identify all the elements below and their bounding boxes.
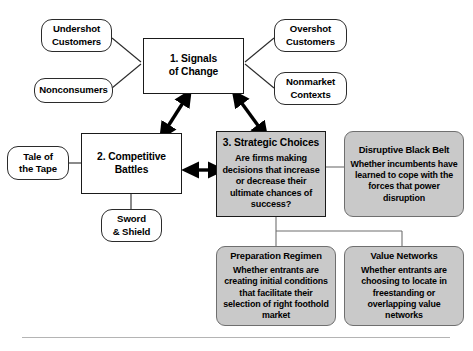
arrow-signals-strategic xyxy=(238,98,262,131)
box-signals-of-change[interactable]: 1. Signals of Change xyxy=(143,38,244,94)
satellite-tale-of-the-tape[interactable]: Tale of the Tape xyxy=(7,146,69,180)
satellite-sword-line1: Sword xyxy=(117,213,146,225)
card-preparation-regimen[interactable]: Preparation Regimen Whether entrants are… xyxy=(216,246,336,326)
box-competitive-battles[interactable]: 2. Competitive Battles xyxy=(81,133,182,194)
box-strategic-title: 3. Strategic Choices xyxy=(223,137,319,150)
satellite-nonmarket-line2: Contexts xyxy=(290,89,330,101)
card-black-belt-title: Disruptive Black Belt xyxy=(359,144,450,156)
card-preparation-title: Preparation Regimen xyxy=(230,250,321,262)
card-value-networks[interactable]: Value Networks Whether entrants are choo… xyxy=(344,246,464,326)
satellite-tale-line2: the Tape xyxy=(19,163,57,175)
card-value-networks-body: Whether entrants are choosing to locate … xyxy=(350,265,458,321)
diagram-canvas: 1. Signals of Change 2. Competitive Batt… xyxy=(0,0,473,351)
box-competitive-title-line1: 2. Competitive xyxy=(97,151,166,164)
arrow-signals-competitive xyxy=(165,98,186,131)
satellite-nonconsumers-line1: Nonconsumers xyxy=(39,84,108,96)
card-value-networks-title: Value Networks xyxy=(370,250,437,262)
satellite-overshot-customers[interactable]: Overshot Customers xyxy=(274,19,347,52)
satellite-undershot-customers[interactable]: Undershot Customers xyxy=(41,19,112,52)
box-strategic-body: Are firms making decisions that increase… xyxy=(220,153,322,211)
card-disruptive-black-belt[interactable]: Disruptive Black Belt Whether incumbents… xyxy=(344,131,464,217)
satellite-nonmarket-line1: Nonmarket xyxy=(286,76,335,88)
satellite-connectors-right xyxy=(245,38,274,88)
satellite-nonmarket-contexts[interactable]: Nonmarket Contexts xyxy=(274,72,347,105)
satellite-nonconsumers[interactable]: Nonconsumers xyxy=(34,78,113,103)
satellite-overshot-line2: Customers xyxy=(286,36,335,48)
box-signals-title-line2: of Change xyxy=(169,66,218,79)
satellite-connectors-left xyxy=(112,38,141,88)
satellite-undershot-line2: Customers xyxy=(52,36,101,48)
connector-strategic-to-bottom-cards xyxy=(276,216,402,246)
satellite-undershot-line1: Undershot xyxy=(53,23,100,35)
card-preparation-body: Whether entrants are creating initial co… xyxy=(222,265,330,321)
footer-divider xyxy=(22,337,450,338)
satellite-overshot-line1: Overshot xyxy=(290,23,331,35)
satellite-sword-and-shield[interactable]: Sword & Shield xyxy=(101,209,162,242)
satellite-sword-line2: & Shield xyxy=(113,226,151,238)
box-competitive-title-line2: Battles xyxy=(115,164,149,177)
box-strategic-choices[interactable]: 3. Strategic Choices Are firms making de… xyxy=(216,131,326,217)
card-black-belt-body: Whether incumbents have learned to cope … xyxy=(350,159,458,204)
satellite-tale-line1: Tale of xyxy=(23,151,53,163)
box-signals-title-line1: 1. Signals xyxy=(170,53,217,66)
